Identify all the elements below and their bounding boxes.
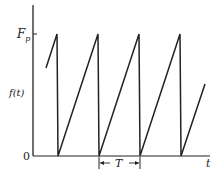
period-label: T bbox=[115, 157, 124, 170]
origin-label: 0 bbox=[23, 150, 30, 163]
arrowhead-right-icon bbox=[135, 161, 139, 165]
sawtooth-diagram: T t 0 f(t) Fp bbox=[0, 0, 218, 176]
y-axis-label: f(t) bbox=[8, 87, 25, 98]
peak-label-sub: p bbox=[25, 34, 30, 43]
peak-label: Fp bbox=[16, 27, 30, 43]
arrowhead-left-icon bbox=[100, 161, 104, 165]
sawtooth-waveform bbox=[46, 34, 205, 156]
x-axis-label: t bbox=[206, 157, 211, 170]
